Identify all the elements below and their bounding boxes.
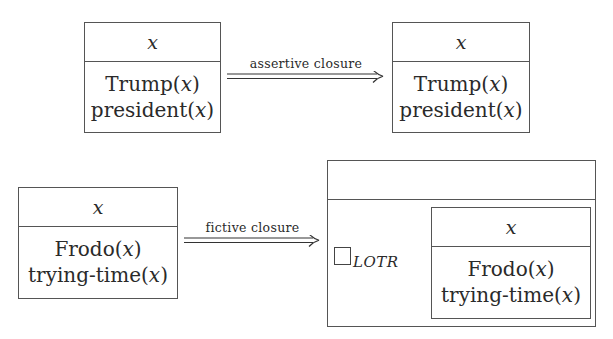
predicate: president [91,98,187,122]
argument: x [123,237,134,261]
drs-frodo-target: LOTR x Frodo(x) trying-time(x) [327,160,596,327]
condition: Trump(x) [105,71,199,97]
drs-trump-source: x Trump(x) president(x) [84,22,221,133]
necessity-operator: LOTR [334,247,399,265]
drs-universe: x [393,23,529,62]
condition: trying-time(x) [441,282,581,308]
drs-universe [328,161,595,200]
predicate: trying-time [441,283,554,307]
condition: trying-time(x) [28,262,168,288]
argument: x [504,98,515,122]
drs-universe: x [19,188,177,227]
assertive-closure-arrow: assertive closure [227,56,385,86]
predicate: Frodo [467,257,527,281]
predicate: president [399,98,495,122]
universe-var: x [506,216,517,238]
drs-conditions: Frodo(x) trying-time(x) [19,226,177,298]
universe-var: x [456,31,467,53]
argument: x [149,263,160,287]
condition: Trump(x) [414,71,508,97]
argument: x [181,72,192,96]
box-modal-icon [334,247,351,265]
drs-trump-target: x Trump(x) president(x) [392,22,530,133]
drs-embedded: x Frodo(x) trying-time(x) [431,207,591,319]
drs-frodo-source: x Frodo(x) trying-time(x) [18,187,178,299]
drs-universe: x [85,23,220,62]
modal-subscript: LOTR [353,253,399,271]
drs-conditions: Trump(x) president(x) [85,61,220,132]
predicate: trying-time [28,263,141,287]
universe-var: x [93,196,104,218]
predicate: Trump [414,72,482,96]
condition: president(x) [399,97,522,123]
drs-universe: x [432,208,590,247]
fictive-closure-arrow: fictive closure [184,220,321,250]
arrow-label: fictive closure [184,220,321,235]
predicate: Trump [105,72,173,96]
condition: Frodo(x) [467,256,554,282]
drs-conditions: Frodo(x) trying-time(x) [432,246,590,318]
condition: Frodo(x) [54,236,141,262]
double-arrow-icon [184,235,321,249]
drs-conditions: Trump(x) president(x) [393,61,529,132]
argument: x [195,98,206,122]
predicate: Frodo [54,237,114,261]
condition: president(x) [91,97,214,123]
argument: x [489,72,500,96]
universe-var: x [147,31,158,53]
arrow-label: assertive closure [227,56,385,71]
argument: x [562,283,573,307]
argument: x [536,257,547,281]
double-arrow-icon [227,71,385,85]
